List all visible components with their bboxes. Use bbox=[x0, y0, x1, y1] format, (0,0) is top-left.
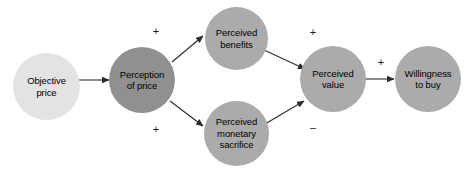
node-perceived-value: Perceived value bbox=[300, 46, 366, 112]
edge-perception-of-price-to-perceived-monetary-sacrifice bbox=[170, 101, 203, 126]
price-perception-diagram: Objective price Perception of price Perc… bbox=[0, 0, 472, 172]
sign-value-to-willingness: + bbox=[374, 57, 388, 68]
node-perception-of-price: Perception of price bbox=[109, 47, 175, 113]
node-label-willingness-to-buy: Willingness to buy bbox=[403, 68, 454, 91]
node-label-perceived-benefits: Perceived benefits bbox=[214, 27, 259, 50]
node-label-perceived-monetary-sacrifice: Perceived monetary sacrifice bbox=[214, 116, 259, 151]
edge-perception-of-price-to-perceived-benefits bbox=[172, 36, 203, 62]
edge-perceived-benefits-to-perceived-value bbox=[264, 50, 305, 69]
node-perceived-monetary-sacrifice: Perceived monetary sacrifice bbox=[204, 101, 269, 166]
sign-benefits-to-value: + bbox=[306, 27, 320, 38]
sign-sacrifice-to-value: – bbox=[306, 122, 320, 133]
node-willingness-to-buy: Willingness to buy bbox=[395, 46, 461, 112]
node-label-perception-of-price: Perception of price bbox=[118, 69, 166, 92]
node-label-objective-price: Objective price bbox=[25, 75, 68, 98]
sign-price-to-sacrifice: + bbox=[149, 124, 163, 135]
node-perceived-benefits: Perceived benefits bbox=[205, 7, 268, 70]
sign-price-to-benefits: + bbox=[149, 26, 163, 37]
node-label-perceived-value: Perceived value bbox=[310, 68, 355, 91]
edge-perceived-monetary-sacrifice-to-perceived-value bbox=[265, 101, 304, 124]
node-objective-price: Objective price bbox=[13, 53, 80, 120]
